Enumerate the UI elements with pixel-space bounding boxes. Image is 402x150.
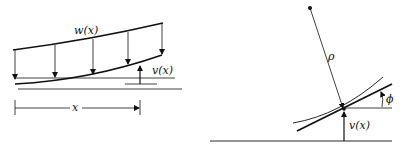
- deflection-label-left: v(x): [152, 64, 173, 77]
- angle-label: ϕ: [386, 93, 394, 106]
- distributed-load-diagram: w(x) v(x) x: [13, 23, 182, 115]
- load-label: w(x): [74, 24, 98, 37]
- angle-arc: [381, 92, 383, 107]
- position-label: x: [72, 101, 79, 114]
- radius-line: [310, 8, 343, 108]
- contact-point: [342, 107, 346, 111]
- curvature-diagram: ρ ϕ v(x): [210, 6, 394, 141]
- beam-curve: [293, 77, 383, 123]
- radius-label: ρ: [327, 50, 335, 63]
- beam-diagram: w(x) v(x) x ρ ϕ v(x): [0, 0, 402, 150]
- deflection-label-right: v(x): [349, 119, 370, 132]
